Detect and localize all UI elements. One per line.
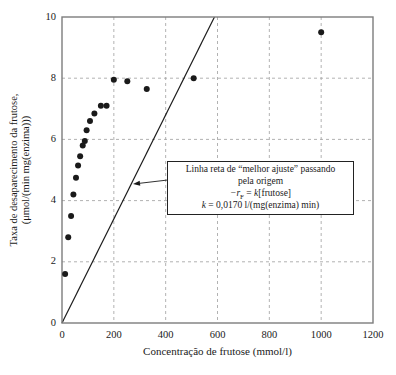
y-tick-label: 8	[24, 72, 56, 83]
equation-bracket: [frutose]	[258, 188, 291, 198]
y-tick-label: 4	[24, 194, 56, 205]
y-axis-title-line2: (μmol/(min mg(enzima)))	[20, 17, 32, 323]
annotation-equation: −rF = k[frutose]	[168, 187, 353, 199]
y-tick-label: 6	[24, 133, 56, 144]
annotation-box: Linha reta de “melhor ajuste” passando p…	[167, 161, 354, 215]
x-tick-label: 800	[249, 329, 289, 340]
x-tick-label: 1200	[353, 329, 393, 340]
y-tick-label: 0	[24, 317, 56, 328]
annotation-arrow-line	[140, 180, 167, 183]
data-point	[87, 118, 93, 124]
chart-figure: Taxa de desaparecimento da frutose, (μmo…	[0, 0, 396, 375]
data-point	[70, 191, 76, 197]
y-tick-label: 2	[24, 255, 56, 266]
equation-variable: −r	[230, 188, 240, 198]
data-point	[73, 175, 79, 181]
data-point	[82, 138, 88, 144]
x-axis-title: Concentração de frutose (mmol/l)	[62, 345, 373, 357]
data-point	[91, 110, 97, 116]
data-point	[318, 29, 324, 35]
y-axis-title: Taxa de desaparecimento da frutose, (μmo…	[8, 17, 33, 323]
data-point	[65, 234, 71, 240]
data-point	[144, 86, 150, 92]
data-point	[191, 75, 197, 81]
annotation-line2: pela origem	[168, 175, 353, 187]
data-point	[84, 127, 90, 133]
y-axis-title-line1: Taxa de desaparecimento da frutose,	[8, 17, 20, 323]
data-point	[68, 213, 74, 219]
data-point	[62, 271, 68, 277]
data-point	[98, 103, 104, 109]
x-tick-label: 0	[42, 329, 82, 340]
y-tick-label: 10	[24, 11, 56, 22]
x-tick-label: 200	[94, 329, 134, 340]
x-tick-label: 1000	[301, 329, 341, 340]
x-tick-label: 400	[146, 329, 186, 340]
data-point	[104, 103, 110, 109]
equation-equals: =	[244, 188, 254, 198]
data-point	[111, 77, 117, 83]
data-point	[77, 153, 83, 159]
annotation-k-value: k = 0,0170 l/(mg(enzima) min)	[168, 199, 353, 211]
data-point	[124, 78, 130, 84]
annotation-line1: Linha reta de “melhor ajuste” passando	[168, 163, 353, 175]
annotation-arrow-head	[133, 181, 140, 186]
data-point	[75, 162, 81, 168]
x-tick-label: 600	[198, 329, 238, 340]
k-value-text: = 0,0170 l/(mg(enzima) min)	[206, 200, 319, 210]
